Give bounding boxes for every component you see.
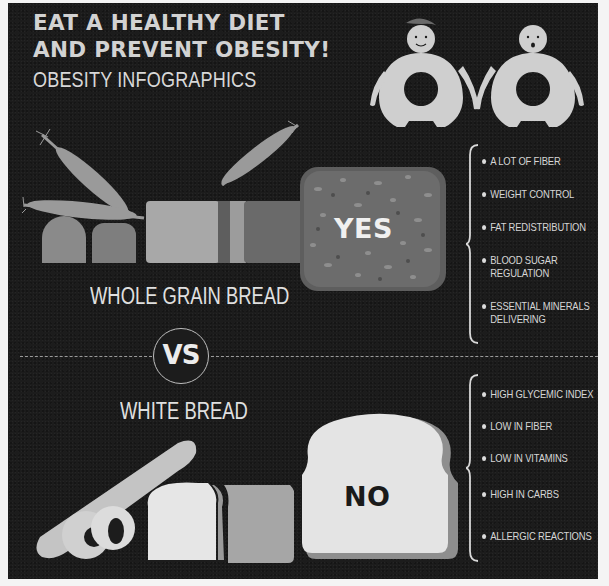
whole-grain-label: WHOLE GRAIN BREAD: [90, 283, 289, 310]
drawbacks-list: HIGH GLYCEMIC INDEX LOW IN FIBER LOW IN …: [482, 388, 598, 543]
headline-line-2: AND PREVENT OBESITY!: [33, 36, 330, 63]
drawback-item: HIGH IN CARBS: [482, 488, 593, 501]
divider-left: [20, 356, 152, 357]
drawback-item: ALLERGIC REACTIONS: [482, 530, 593, 543]
benefits-list: A LOT OF FIBER WEIGHT CONTROL FAT REDIST…: [482, 155, 598, 326]
white-bread-label: WHITE BREAD: [120, 398, 248, 425]
subtitle: OBESITY INFOGRAPHICS: [33, 67, 256, 93]
benefit-item: A LOT OF FIBER: [482, 155, 590, 168]
benefit-item: FAT REDISTRIBUTION: [482, 221, 590, 234]
verdict-yes: YES: [334, 213, 393, 244]
verdict-no: NO: [344, 481, 391, 512]
infographic-panel: EAT A HEALTHY DIET AND PREVENT OBESITY! …: [8, 3, 598, 579]
divider-right: [206, 356, 598, 357]
obese-figures-illustration: [366, 11, 598, 131]
benefit-item: WEIGHT CONTROL: [482, 188, 590, 201]
drawbacks-bracket-icon: [466, 373, 480, 563]
drawback-item: LOW IN FIBER: [482, 420, 593, 433]
headline: EAT A HEALTHY DIET AND PREVENT OBESITY!: [33, 9, 330, 63]
benefit-item: ESSENTIAL MINERALS: [482, 300, 590, 313]
vs-badge: VS: [153, 328, 209, 384]
benefits-bracket-icon: [466, 143, 480, 345]
whole-grain-slice: YES: [298, 165, 448, 293]
whole-grain-bread-illustration: [22, 115, 302, 263]
vs-label: VS: [163, 340, 200, 370]
drawback-item: HIGH GLYCEMIC INDEX: [482, 388, 593, 401]
drawback-item: LOW IN VITAMINS: [482, 452, 593, 465]
benefit-item-continued: REGULATION: [482, 267, 590, 280]
white-bread-illustration: [28, 433, 294, 573]
headline-line-1: EAT A HEALTHY DIET: [33, 9, 330, 36]
benefit-item-continued: DELIVERING: [482, 313, 590, 326]
benefit-item: BLOOD SUGAR: [482, 254, 590, 267]
white-bread-slice: NO: [298, 411, 458, 561]
